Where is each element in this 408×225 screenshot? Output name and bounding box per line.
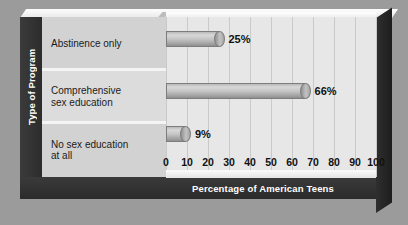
x-tick-label: 30 [223,156,235,168]
category-rows: Abstinence onlyComprehensivesex educatio… [42,0,166,225]
category-label: Abstinence only [51,38,122,50]
gridline [355,17,356,177]
gridline [334,17,335,177]
x-tick-label: 0 [163,156,169,168]
x-tick-label: 70 [307,156,319,168]
row-separator [42,68,166,71]
x-tick-label: 50 [265,156,277,168]
gridline [313,17,314,177]
bar [166,83,305,99]
bar [166,126,185,142]
x-tick-label: 90 [349,156,361,168]
bar-value-label: 9% [195,128,211,140]
gridline [376,17,377,177]
x-axis-tick-labels: 0102030405060708090100 [160,156,384,172]
category-row: Abstinence only [42,17,166,70]
bar-value-label: 66% [315,85,337,97]
row-separator [42,121,166,124]
plot-area [166,17,376,177]
bar-end-cap [214,31,225,47]
category-row: Comprehensivesex education [42,70,166,123]
bar-chart: Type of Program Percentage of American T… [0,0,408,225]
category-label: Comprehensivesex education [51,85,121,108]
bar [166,31,219,47]
bar-end-cap [180,126,191,142]
x-tick-label: 80 [328,156,340,168]
x-tick-label: 60 [286,156,298,168]
y-axis-title: Type of Program [20,17,42,157]
x-tick-label: 10 [181,156,193,168]
x-tick-label: 40 [244,156,256,168]
bar-end-cap [300,83,311,99]
chart-right-bevel [376,8,392,213]
x-tick-label: 20 [202,156,214,168]
bar-value-label: 25% [229,33,251,45]
category-row: No sex educationat all [42,123,166,177]
x-axis-title: Percentage of American Teens [150,177,376,199]
x-tick-label: 100 [367,156,385,168]
category-label: No sex educationat all [51,139,128,162]
